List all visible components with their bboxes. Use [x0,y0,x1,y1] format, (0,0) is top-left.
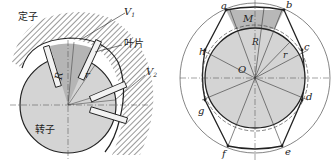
left-vane-pump-figure: 定子 叶片 转子 V1 V2 R r [10,6,157,160]
point-h-label: h [199,46,205,57]
vane-label: 叶片 [124,37,144,49]
rotor-label: 转子 [35,123,55,135]
point-g-label: g [198,105,204,116]
sector-M-label: M [242,13,254,24]
right-vane-pump-figure: a b c d e f g h M O R r [180,0,330,160]
point-e-label: e [285,146,291,157]
center-O-label: O [238,64,246,75]
big-radius-R-label: R [251,37,259,47]
point-c-label: c [304,41,310,52]
point-d-label: d [306,91,312,102]
stator-label: 定子 [18,10,38,22]
point-f-label: f [221,148,228,159]
small-radius-r-label: r [283,50,288,60]
v1-label: V1 [124,6,135,18]
point-a-label: a [221,0,227,11]
v2-label: V2 [146,66,157,78]
vane-pump-diagram: 定子 叶片 转子 V1 V2 R r [0,0,335,162]
point-b-label: b [286,0,292,10]
